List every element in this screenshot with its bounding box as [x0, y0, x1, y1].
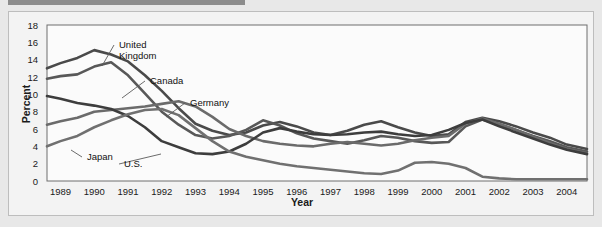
x-tick-label: 1992	[151, 186, 172, 197]
x-tick-label: 1991	[117, 186, 138, 197]
x-tick-label: 1994	[219, 186, 240, 197]
series-label-germany: Germany	[190, 97, 229, 108]
page-header-strip: International Money Market Rates	[0, 0, 602, 9]
y-tick-label: 14	[27, 54, 38, 65]
x-tick-label: 2003	[522, 186, 543, 197]
line-chart-plot: 024681012141618 198919901991199219931994…	[9, 12, 595, 217]
x-tick-label: 2002	[489, 186, 510, 197]
y-tick-label: 12	[27, 72, 38, 83]
y-tick-label: 4	[33, 141, 38, 152]
header-tab-block	[8, 0, 245, 5]
series-label-japan: Japan	[87, 151, 113, 162]
series-label-canada: Canada	[150, 75, 184, 86]
x-tick-label: 2004	[556, 186, 577, 197]
y-tick-label: 8	[33, 106, 38, 117]
x-tick-label: 1999	[387, 186, 408, 197]
x-tick-label: 2001	[455, 186, 476, 197]
x-tick-label: 1989	[50, 186, 71, 197]
chart-figure: Percent Year 024681012141618 19891990199…	[8, 11, 594, 216]
x-tick-label: 1993	[185, 186, 206, 197]
x-tick-label: 1990	[84, 186, 105, 197]
y-tick-label: 18	[27, 20, 38, 31]
x-tick-label: 1995	[252, 186, 273, 197]
y-tick-label: 16	[27, 37, 38, 48]
y-tick-label: 6	[33, 124, 38, 135]
x-tick-label: 1996	[286, 186, 307, 197]
y-tick-label: 2	[33, 158, 38, 169]
x-tick-labels: 1989199019911992199319941995199619971998…	[50, 186, 577, 197]
x-tick-label: 2000	[421, 186, 442, 197]
series-label-u-s-: U.S.	[124, 158, 142, 169]
x-tick-label: 1998	[354, 186, 375, 197]
y-tick-label: 10	[27, 89, 38, 100]
y-tick-labels: 024681012141618	[27, 20, 38, 187]
y-tick-label: 0	[33, 176, 38, 187]
x-tick-label: 1997	[320, 186, 341, 197]
